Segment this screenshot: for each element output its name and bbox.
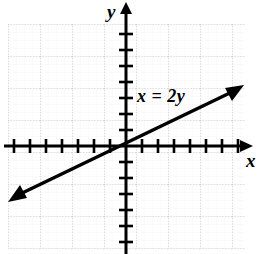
- equation-annotation-label: x = 2y: [137, 86, 185, 107]
- x-axis-label: x: [246, 151, 256, 170]
- y-axis-label: y: [107, 2, 115, 21]
- graph-canvas: [0, 0, 261, 254]
- y-axis-arrowhead: [120, 2, 132, 14]
- coordinate-graph-figure: y x x = 2y: [0, 0, 261, 254]
